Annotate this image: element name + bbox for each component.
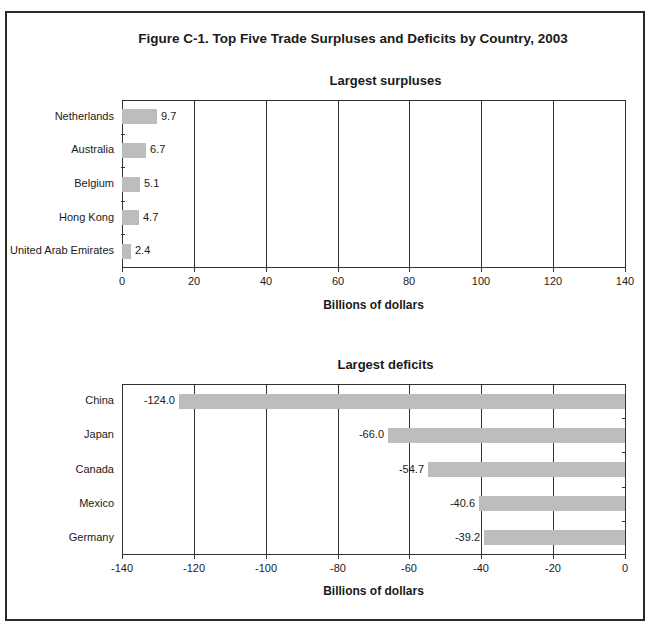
surplus-x-tick-label: 40: [246, 275, 286, 287]
surplus-x-tick-label: 60: [318, 275, 358, 287]
deficit-y-tick-mark: [622, 418, 626, 419]
deficit-x-tick-label: -40: [461, 562, 501, 574]
deficit-category-label: Germany: [2, 531, 114, 543]
surplus-x-tick-label: 80: [389, 275, 429, 287]
deficit-x-tick-label: -100: [246, 562, 286, 574]
deficit-category-label: Canada: [2, 463, 114, 475]
deficit-x-tick-mark: [553, 554, 554, 559]
deficit-bar: [428, 462, 625, 477]
surplus-category-label: Belgium: [2, 177, 114, 189]
surplus-x-tick-label: 120: [533, 275, 573, 287]
deficit-x-tick-mark: [194, 554, 195, 559]
surplus-value-label: 2.4: [135, 244, 150, 256]
surplus-bar: [122, 244, 131, 259]
surplus-bar: [122, 143, 146, 158]
surplus-category-label: Hong Kong: [2, 211, 114, 223]
deficit-bar: [179, 394, 625, 409]
deficit-x-tick-mark: [338, 554, 339, 559]
surplus-gridline: [338, 100, 339, 268]
deficit-x-tick-mark: [625, 554, 626, 559]
surplus-value-label: 5.1: [144, 177, 159, 189]
surplus-y-tick-mark: [121, 201, 125, 202]
deficit-x-tick-label: -20: [533, 562, 573, 574]
deficit-y-tick-mark: [622, 487, 626, 488]
deficit-x-tick-mark: [266, 554, 267, 559]
deficit-category-label: Mexico: [2, 497, 114, 509]
surpluses-title: Largest surpluses: [0, 73, 646, 88]
surplus-value-label: 4.7: [143, 211, 158, 223]
surplus-bar: [122, 177, 140, 192]
deficit-y-tick-mark: [622, 452, 626, 453]
surplus-x-tick-mark: [553, 267, 554, 272]
surplus-category-label: Australia: [2, 143, 114, 155]
deficit-gridline: [266, 384, 267, 555]
deficit-bar: [484, 530, 625, 545]
surplus-x-tick-label: 100: [461, 275, 501, 287]
deficit-x-tick-mark: [409, 554, 410, 559]
deficit-value-label: -54.7: [399, 463, 424, 475]
surplus-category-label: United Arab Emirates: [2, 244, 114, 256]
deficit-bar: [479, 496, 625, 511]
deficit-x-tick-label: -120: [174, 562, 214, 574]
surplus-x-tick-mark: [625, 267, 626, 272]
deficit-x-tick-label: -60: [389, 562, 429, 574]
surplus-y-tick-mark: [121, 167, 125, 168]
surplus-x-tick-mark: [194, 267, 195, 272]
deficit-value-label: -124.0: [144, 394, 175, 406]
surplus-x-tick-mark: [338, 267, 339, 272]
surplus-gridline: [553, 100, 554, 268]
surplus-value-label: 9.7: [161, 110, 176, 122]
deficit-category-label: China: [2, 394, 114, 406]
surplus-bar: [122, 210, 139, 225]
surplus-x-tick-label: 0: [102, 275, 142, 287]
deficit-gridline: [338, 384, 339, 555]
surplus-category-label: Netherlands: [2, 110, 114, 122]
figure-title: Figure C-1. Top Five Trade Surpluses and…: [0, 31, 646, 46]
deficit-y-tick-mark: [622, 521, 626, 522]
deficit-gridline: [194, 384, 195, 555]
surplus-y-tick-mark: [121, 134, 125, 135]
deficit-bar: [388, 428, 625, 443]
deficits-x-axis-title: Billions of dollars: [122, 584, 625, 598]
deficit-x-tick-mark: [481, 554, 482, 559]
deficit-x-tick-label: 0: [605, 562, 645, 574]
deficit-x-tick-label: -140: [102, 562, 142, 574]
deficits-title: Largest deficits: [0, 357, 646, 372]
surplus-y-tick-mark: [121, 234, 125, 235]
surplus-gridline: [266, 100, 267, 268]
surplus-value-label: 6.7: [150, 143, 165, 155]
surplus-bar: [122, 109, 157, 124]
surplus-plot-area: [122, 100, 626, 268]
surpluses-x-axis-title: Billions of dollars: [122, 298, 625, 312]
deficit-value-label: -40.6: [450, 497, 475, 509]
deficit-x-tick-label: -80: [318, 562, 358, 574]
surplus-gridline: [409, 100, 410, 268]
surplus-gridline: [481, 100, 482, 268]
surplus-x-tick-mark: [409, 267, 410, 272]
deficit-category-label: Japan: [2, 428, 114, 440]
surplus-x-tick-mark: [481, 267, 482, 272]
surplus-x-tick-label: 20: [174, 275, 214, 287]
deficit-value-label: -39.2: [455, 531, 480, 543]
surplus-x-tick-mark: [122, 267, 123, 272]
deficit-x-tick-mark: [122, 554, 123, 559]
surplus-gridline: [194, 100, 195, 268]
surplus-x-tick-mark: [266, 267, 267, 272]
surplus-x-tick-label: 140: [605, 275, 645, 287]
deficit-value-label: -66.0: [359, 428, 384, 440]
